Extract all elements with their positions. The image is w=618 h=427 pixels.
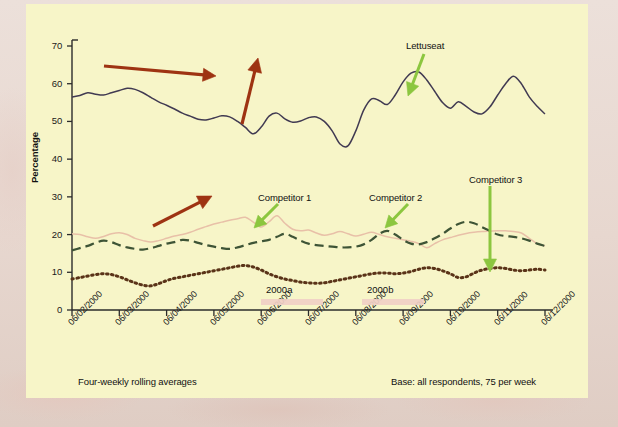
callout-arrow-competitor-2 xyxy=(385,204,408,228)
y-tick-0: 0 xyxy=(36,304,62,315)
period-label-2000b: 2000b xyxy=(367,284,393,295)
annotation-competitor-1: Competitor 1 xyxy=(258,192,311,203)
annotation-lettuseat: Lettuseat xyxy=(406,40,444,51)
trend-arrow-competitor1-rising xyxy=(153,196,212,226)
period-label-2000a: 2000a xyxy=(266,284,292,295)
annotation-competitor-2: Competitor 2 xyxy=(369,192,422,203)
series-line-lettuseat xyxy=(72,71,545,147)
y-tick-60: 60 xyxy=(36,78,62,89)
y-tick-20: 20 xyxy=(36,229,62,240)
trend-arrows xyxy=(104,58,262,226)
series-line-competitor-3 xyxy=(72,265,545,285)
y-tick-30: 30 xyxy=(36,191,62,202)
y-tick-50: 50 xyxy=(36,115,62,126)
footnote-left: Four-weekly rolling averages xyxy=(78,376,197,387)
footnote-right: Base: all respondents, 75 per week xyxy=(391,376,536,387)
callout-arrows xyxy=(254,54,497,272)
chart-image-frame: Percentage 010203040506070 06/02/200006/… xyxy=(0,0,618,427)
y-tick-10: 10 xyxy=(36,266,62,277)
y-tick-70: 70 xyxy=(36,40,62,51)
y-tick-40: 40 xyxy=(36,153,62,164)
period-bar-2000b xyxy=(362,299,424,305)
trend-arrow-lettuseat-flat xyxy=(104,66,216,81)
chart-panel: Percentage 010203040506070 06/02/200006/… xyxy=(26,4,588,398)
series-line-competitor-2 xyxy=(72,222,545,251)
trend-arrow-lettuseat-rising xyxy=(242,58,262,124)
period-bar-2000a xyxy=(261,299,323,305)
annotation-competitor-3: Competitor 3 xyxy=(469,174,522,185)
